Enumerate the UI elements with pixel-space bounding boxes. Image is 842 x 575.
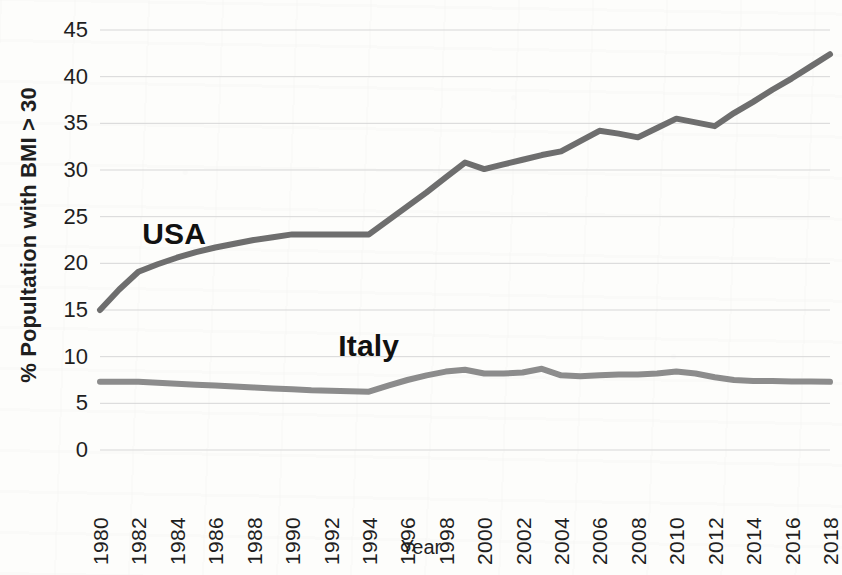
series-label-italy: Italy [338,329,399,363]
series-lines [100,54,830,391]
bmi-obesity-line-chart: % Popultation with BMI > 30 454035302520… [0,0,842,575]
series-line-usa [100,54,830,310]
series-label-usa: USA [142,217,206,251]
series-line-italy [100,369,830,392]
x-axis-title: Year [0,536,842,559]
